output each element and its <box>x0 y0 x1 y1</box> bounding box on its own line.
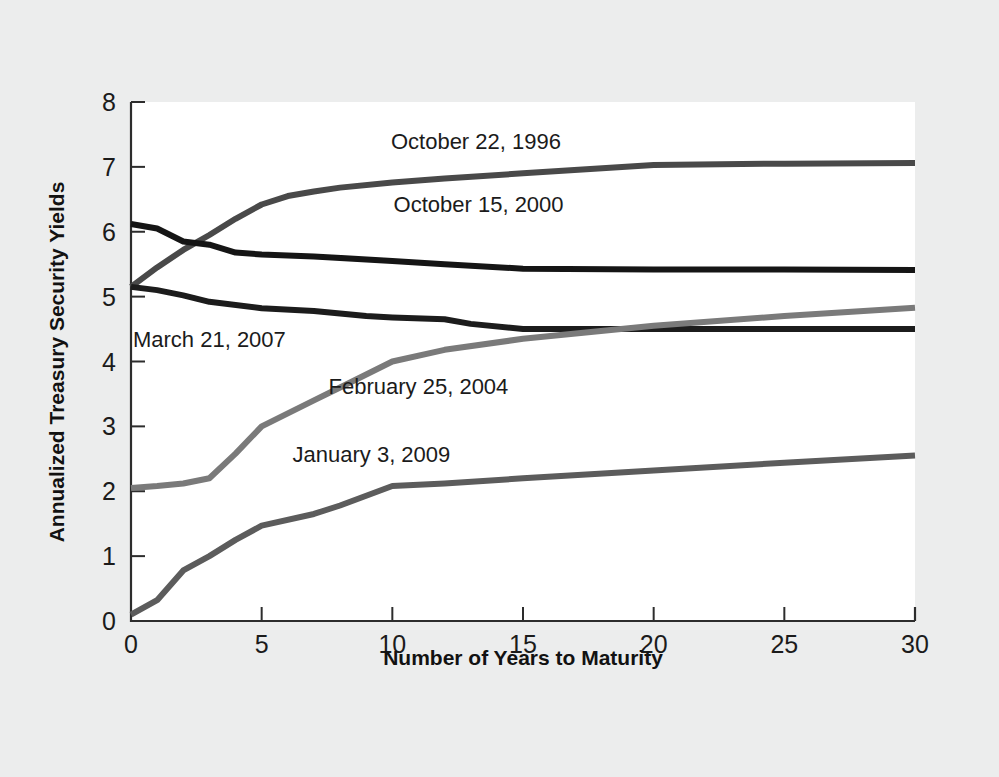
series-label: January 3, 2009 <box>293 442 451 467</box>
y-tick-label: 1 <box>102 542 116 570</box>
x-axis-title: Number of Years to Maturity <box>383 646 663 669</box>
y-tick-label: 5 <box>102 283 116 311</box>
y-tick-label: 2 <box>102 477 116 505</box>
series-label: February 25, 2004 <box>329 374 509 399</box>
series-line <box>131 287 915 329</box>
x-tick-label: 0 <box>124 630 138 658</box>
series-label: March 21, 2007 <box>133 327 286 352</box>
y-tick-label: 4 <box>102 348 116 376</box>
x-tick-label: 25 <box>770 630 798 658</box>
y-tick-label: 0 <box>102 607 116 635</box>
y-axis-title: Annualized Treasury Security Yields <box>45 182 68 543</box>
y-tick-label: 7 <box>102 153 116 181</box>
series-lines <box>131 163 915 615</box>
x-tick-label: 30 <box>901 630 929 658</box>
axis-lines <box>131 102 915 621</box>
series-label: October 22, 1996 <box>391 129 561 154</box>
y-tick-label: 3 <box>102 412 116 440</box>
line-chart: 012345678 051015202530 October 22, 1996O… <box>0 0 999 777</box>
series-line <box>131 456 915 615</box>
y-tick-label: 6 <box>102 218 116 246</box>
series-line <box>131 224 915 270</box>
figure-container: 012345678 051015202530 October 22, 1996O… <box>0 0 999 777</box>
y-tick-label: 8 <box>102 88 116 116</box>
series-label: October 15, 2000 <box>394 192 564 217</box>
x-tick-label: 5 <box>255 630 269 658</box>
y-axis-tick-labels: 012345678 <box>102 88 116 635</box>
x-axis-ticks <box>262 607 785 621</box>
